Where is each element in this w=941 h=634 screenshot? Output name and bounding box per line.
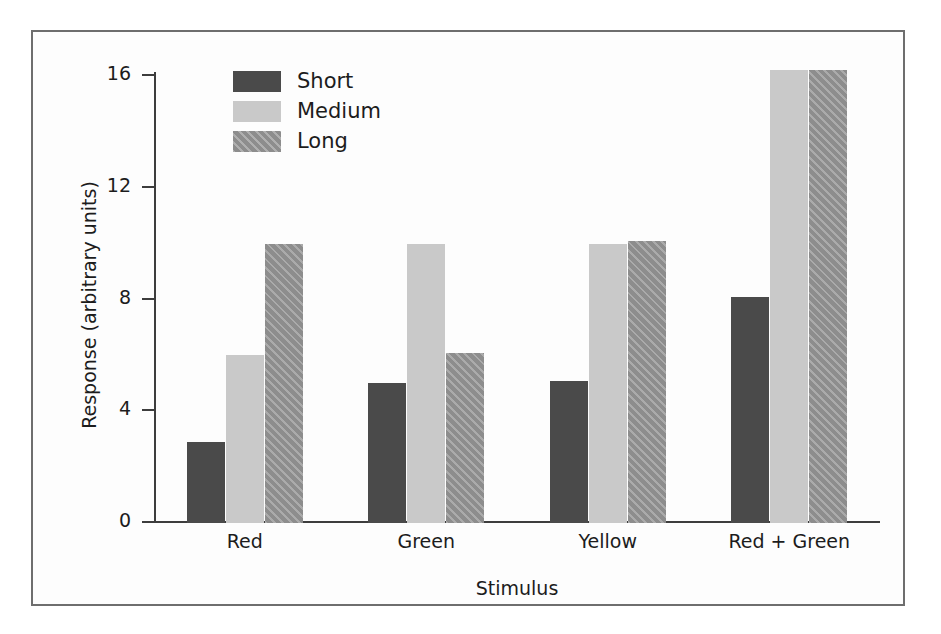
y-axis-tick-mark: [142, 521, 155, 523]
legend-item: Long: [233, 128, 381, 154]
bar: [226, 355, 264, 523]
x-axis-title: Stimulus: [154, 577, 880, 599]
x-axis-tick-label: Yellow: [518, 530, 698, 552]
chart-legend: ShortMediumLong: [233, 68, 381, 158]
legend-item: Short: [233, 68, 381, 94]
y-axis-tick-mark: [142, 409, 155, 411]
plot-area: 0481216 Response (arbitrary units) RedGr…: [33, 32, 907, 608]
y-axis-tick-label: 16: [31, 64, 131, 83]
bar: [550, 381, 588, 523]
legend-label: Medium: [297, 101, 381, 122]
bar: [770, 70, 808, 523]
bar: [731, 297, 769, 523]
legend-label: Long: [297, 131, 348, 152]
bar: [265, 244, 303, 523]
y-axis-title: Response (arbitrary units): [78, 105, 100, 505]
x-axis-tick-label: Red: [155, 530, 335, 552]
bar: [589, 244, 627, 523]
bar: [368, 383, 406, 523]
x-axis-tick-label: Green: [336, 530, 516, 552]
y-axis-tick-label: 0: [31, 511, 131, 530]
legend-swatch-medium: [233, 101, 281, 122]
y-axis-tick-mark: [142, 298, 155, 300]
bar: [407, 244, 445, 523]
legend-item: Medium: [233, 98, 381, 124]
bar: [446, 353, 484, 523]
x-axis-tick-label: Red + Green: [699, 530, 879, 552]
figure-frame: 0481216 Response (arbitrary units) RedGr…: [31, 30, 905, 606]
bar: [809, 70, 847, 523]
figure-root: 0481216 Response (arbitrary units) RedGr…: [0, 0, 941, 634]
legend-label: Short: [297, 71, 353, 92]
bar: [628, 241, 666, 523]
y-axis-tick-mark: [142, 74, 155, 76]
legend-swatch-long: [233, 131, 281, 152]
y-axis-tick-mark: [142, 186, 155, 188]
legend-swatch-short: [233, 71, 281, 92]
bar: [187, 442, 225, 523]
